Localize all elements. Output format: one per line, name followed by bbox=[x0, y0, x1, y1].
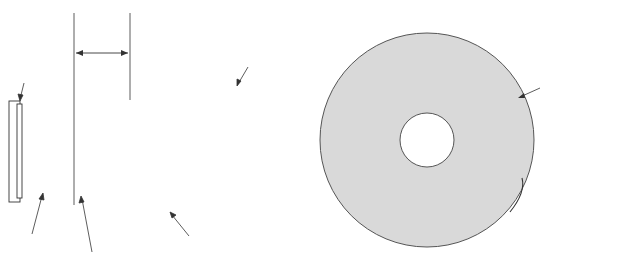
spindle-hole bbox=[400, 113, 454, 167]
disk-surface-diagram bbox=[0, 0, 641, 271]
disk-storage-figure bbox=[0, 0, 641, 271]
